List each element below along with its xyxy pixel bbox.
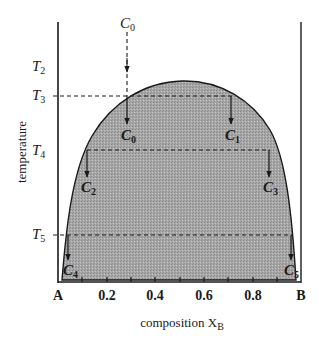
y-axis-title: temperature <box>14 121 29 183</box>
phase-diagram-figure: A 0.2 0.4 0.6 0.8 B composition XB tempe… <box>0 0 319 342</box>
temperature-label-t5: T5 <box>32 226 45 244</box>
composition-label-c0-top: C0 <box>120 15 135 33</box>
x-tick-label-0.6: 0.6 <box>195 288 213 303</box>
temperature-label-t2: T2 <box>32 58 45 76</box>
x-tick-label-a: A <box>53 288 64 303</box>
temperature-label-t4: T4 <box>32 142 45 160</box>
temperature-label-t3: T3 <box>32 87 45 105</box>
x-tick-label-0.2: 0.2 <box>98 288 116 303</box>
x-tick-label-b: B <box>296 288 305 303</box>
x-tick-label-0.8: 0.8 <box>244 288 262 303</box>
x-axis-title: composition XB <box>140 315 224 332</box>
x-tick-label-0.4: 0.4 <box>146 288 164 303</box>
composition-label-c5: C5 <box>284 262 299 280</box>
two-phase-region <box>62 81 296 280</box>
